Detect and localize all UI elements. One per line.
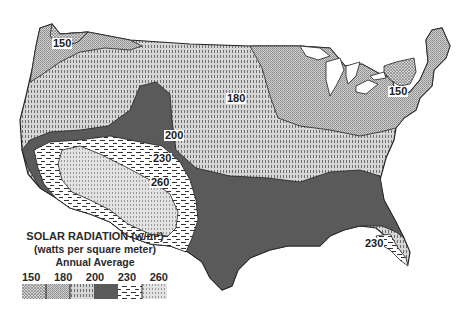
contour-label-200: 200 [164,130,184,141]
legend-subtitle: (watts per square meter) [20,243,170,256]
swatch-180-200 [70,284,94,299]
swatch-230-260 [118,284,142,299]
legend-title: SOLAR RADIATION (w/m²) [20,230,170,243]
legend-tick: 230 [118,271,136,283]
legend-ticks: 150 180 200 230 260 [20,271,170,283]
swatch-200-230 [94,284,118,299]
legend-tick: 150 [22,271,40,283]
legend-period: Annual Average [20,256,170,269]
swatch-over-260 [142,284,167,299]
contour-label-260: 260 [150,177,170,188]
contour-label-180: 180 [226,93,246,104]
contour-label-150-northeast: 150 [388,86,408,97]
legend-tick: 260 [150,271,168,283]
contour-label-230-southwest: 230 [152,153,172,164]
swatch-150-180 [46,284,70,299]
contour-label-150-northwest: 150 [52,38,72,49]
legend: SOLAR RADIATION (w/m²) (watts per square… [20,230,170,299]
legend-swatches [22,284,167,299]
contour-label-230-florida: 230 [364,238,384,249]
legend-tick: 180 [54,271,72,283]
legend-tick: 200 [86,271,104,283]
swatch-under-150 [22,284,46,299]
